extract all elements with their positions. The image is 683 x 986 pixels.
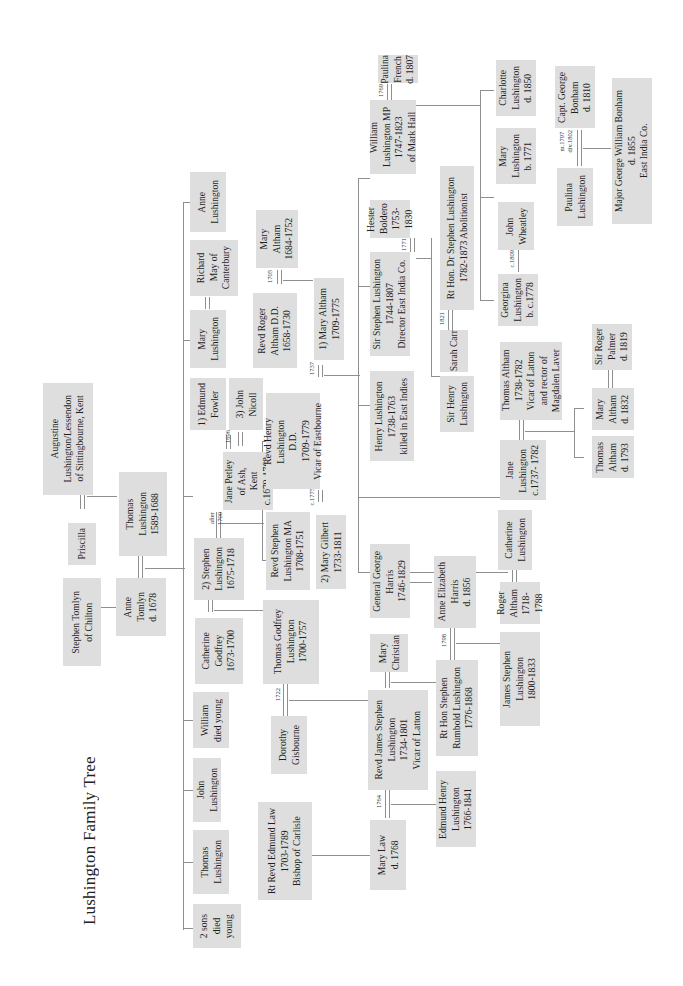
person-box: Catherine Godfrey 1673-1700 bbox=[195, 618, 243, 684]
connector-line bbox=[312, 855, 370, 856]
branch-line bbox=[183, 496, 193, 497]
marriage-line bbox=[518, 250, 519, 272]
marriage-line bbox=[318, 490, 319, 502]
marriage-year: 1722 bbox=[274, 688, 282, 701]
connector-line bbox=[416, 258, 432, 259]
connector-line bbox=[391, 682, 439, 683]
person-box: Anne Elizabeth Harris d. 1856 bbox=[434, 556, 476, 628]
person-box: James Stephen Lushington 1800-1833 bbox=[500, 632, 540, 726]
person-box: Roger Altham 1718- 1788 bbox=[500, 582, 540, 624]
branch-line bbox=[480, 197, 494, 198]
marriage-line bbox=[242, 432, 243, 446]
marriage-line bbox=[389, 672, 390, 688]
person-box: Richard May of Canterbury bbox=[190, 240, 238, 296]
marriage-year: 1771 bbox=[400, 238, 408, 251]
marriage-year: c.1775 bbox=[308, 488, 316, 506]
person-box: Capt. George Bonham d. 1810 bbox=[555, 66, 595, 128]
marriage-year: c.1809 bbox=[508, 250, 516, 268]
connector-line bbox=[87, 496, 117, 497]
branch-line bbox=[358, 497, 508, 498]
branch-line bbox=[183, 928, 193, 929]
marriage-line bbox=[322, 365, 323, 377]
marriage-line bbox=[80, 495, 81, 509]
person-box: 2) Mary Gilbert 1733-1811 bbox=[316, 515, 346, 589]
person-box: 3) John Nicoll bbox=[229, 378, 263, 430]
person-box: Revd Henry Lushington D.D. 1709-1779 Vic… bbox=[266, 393, 320, 489]
branch-line bbox=[183, 790, 193, 791]
branch-line bbox=[574, 457, 584, 458]
marriage-line bbox=[385, 790, 386, 818]
person-box: Mary Lushington b. 1771 bbox=[496, 128, 536, 184]
person-box: Edmund Henry Lushington 1766-1841 bbox=[436, 771, 476, 847]
connector-line bbox=[391, 804, 439, 805]
marriage-line bbox=[209, 297, 210, 309]
person-box: Augustine Lushington/Lessendon of Sittin… bbox=[43, 383, 93, 495]
person-box: Rt Hon Stephen Rumbold Lushington 1776-1… bbox=[436, 660, 478, 756]
branch-line bbox=[358, 405, 370, 406]
marriage-year: 1696 bbox=[224, 430, 232, 443]
marriage-line bbox=[577, 130, 578, 166]
marriage-year: 1798 bbox=[440, 634, 448, 647]
branch-line bbox=[480, 90, 494, 91]
person-box: Revd James Stephen Lushington 1734-1801 … bbox=[368, 690, 428, 790]
children-line bbox=[574, 408, 575, 458]
branch-line bbox=[183, 720, 193, 721]
marriage-line bbox=[287, 684, 288, 716]
marriage-line bbox=[450, 624, 451, 664]
person-box: Major George William Bonham d. 1855 East… bbox=[612, 78, 652, 224]
children-trunk-line bbox=[358, 178, 359, 573]
person-box: Anne Tomlyn d. 1678 bbox=[116, 578, 166, 636]
connector-line bbox=[456, 643, 500, 644]
person-box: 2) Stephen Lushington 1675-1718 bbox=[194, 538, 244, 600]
person-box: Rt Revd Edmund Law 1703-1789 Bishop of C… bbox=[258, 802, 312, 900]
marriage-line bbox=[208, 600, 209, 612]
person-box: Hester Boldero 1753-1830 bbox=[370, 200, 410, 238]
person-box: Mary Lushington bbox=[190, 310, 226, 368]
person-box: General George Harris 1746-1829 bbox=[370, 544, 410, 618]
marriage-year: 1764 bbox=[375, 795, 383, 808]
branch-line bbox=[358, 178, 370, 179]
marriage-year: 1821 bbox=[438, 312, 446, 325]
person-box: Thomas Godfrey Lushington 1700-1757 bbox=[263, 600, 319, 684]
connector-line bbox=[222, 523, 264, 524]
marriage-line bbox=[205, 297, 206, 309]
marriage-line bbox=[387, 84, 388, 100]
marriage-line bbox=[142, 556, 143, 580]
marriage-year: 1737 bbox=[308, 362, 316, 375]
person-box: John Wheatley bbox=[498, 202, 534, 250]
marriage-line bbox=[523, 420, 524, 440]
marriage-line bbox=[519, 420, 520, 440]
marriage-line bbox=[277, 270, 278, 284]
person-box: Mary Altham d. 1832 bbox=[592, 388, 634, 430]
person-box: Sir Stephen Lushington 1744-1807 Directo… bbox=[370, 252, 410, 356]
marriage-line bbox=[283, 684, 284, 716]
marriage-line bbox=[238, 432, 239, 446]
marriage-line bbox=[581, 130, 582, 166]
marriage-line bbox=[212, 600, 213, 612]
connector-line bbox=[145, 568, 185, 569]
person-box: Mary Christian bbox=[370, 634, 408, 672]
connector-line bbox=[324, 375, 360, 376]
person-box: Priscilla bbox=[68, 523, 96, 565]
marriage-line bbox=[389, 790, 390, 818]
person-box: Dorothy Gisbourne bbox=[271, 716, 307, 774]
person-box: 1) Edmund Fowler bbox=[190, 378, 226, 430]
branch-line bbox=[358, 286, 370, 287]
marriage-line bbox=[391, 84, 392, 100]
marriage-line bbox=[448, 310, 449, 330]
branch-line bbox=[574, 408, 584, 409]
person-box: Mary Altham 1684-1752 bbox=[256, 210, 298, 268]
marriage-line bbox=[414, 238, 415, 252]
person-box: Paulina Lushington bbox=[557, 168, 593, 226]
marriage-line bbox=[608, 370, 609, 390]
person-box: Thomas Lushington 1589-1688 bbox=[119, 472, 167, 556]
person-box: Sir Roger Palmer d. 1819 bbox=[592, 324, 632, 370]
person-box: William Lushington MP 1747-1823 of Mark … bbox=[370, 100, 416, 174]
marriage-line bbox=[612, 370, 613, 390]
children-line bbox=[480, 90, 481, 300]
person-box: Stephen Tomlyn of Chilton bbox=[63, 578, 101, 666]
person-box: Revd Stephen Lushington MA 1708-1751 bbox=[266, 512, 310, 590]
person-box: Thomas Altham 1738-1782 Vicar of Latton … bbox=[500, 342, 562, 420]
person-box: Anne Lushington bbox=[190, 172, 226, 232]
person-box: William died young bbox=[193, 692, 229, 748]
